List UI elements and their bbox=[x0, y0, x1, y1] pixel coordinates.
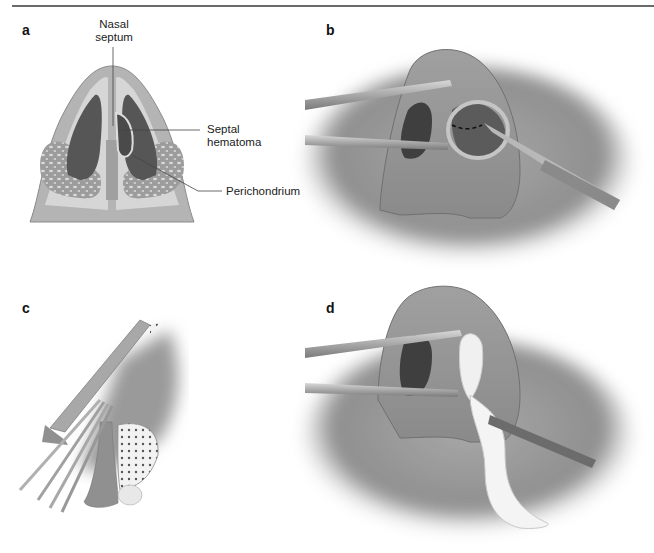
panel-c-sagittal-view bbox=[20, 320, 178, 512]
panel-d-packing bbox=[303, 286, 633, 538]
label-septal-hematoma: Septal hematoma bbox=[207, 123, 261, 149]
panel-a-nose-diagram bbox=[30, 47, 222, 222]
label-nasal-septum: Nasal septum bbox=[94, 18, 134, 44]
panel-b-incision bbox=[303, 50, 633, 265]
label-perichondrium: Perichondrium bbox=[226, 185, 300, 198]
instrument bbox=[20, 400, 100, 490]
figure-illustration bbox=[0, 0, 654, 553]
